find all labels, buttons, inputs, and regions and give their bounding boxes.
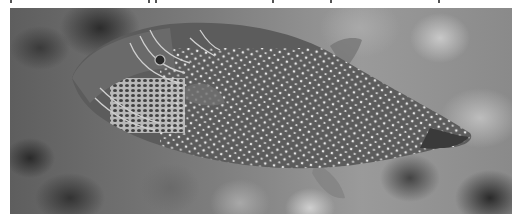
cropped-caption-descenders	[0, 0, 519, 8]
pufferfish-illustration	[10, 8, 512, 214]
fish-photo	[10, 8, 512, 214]
